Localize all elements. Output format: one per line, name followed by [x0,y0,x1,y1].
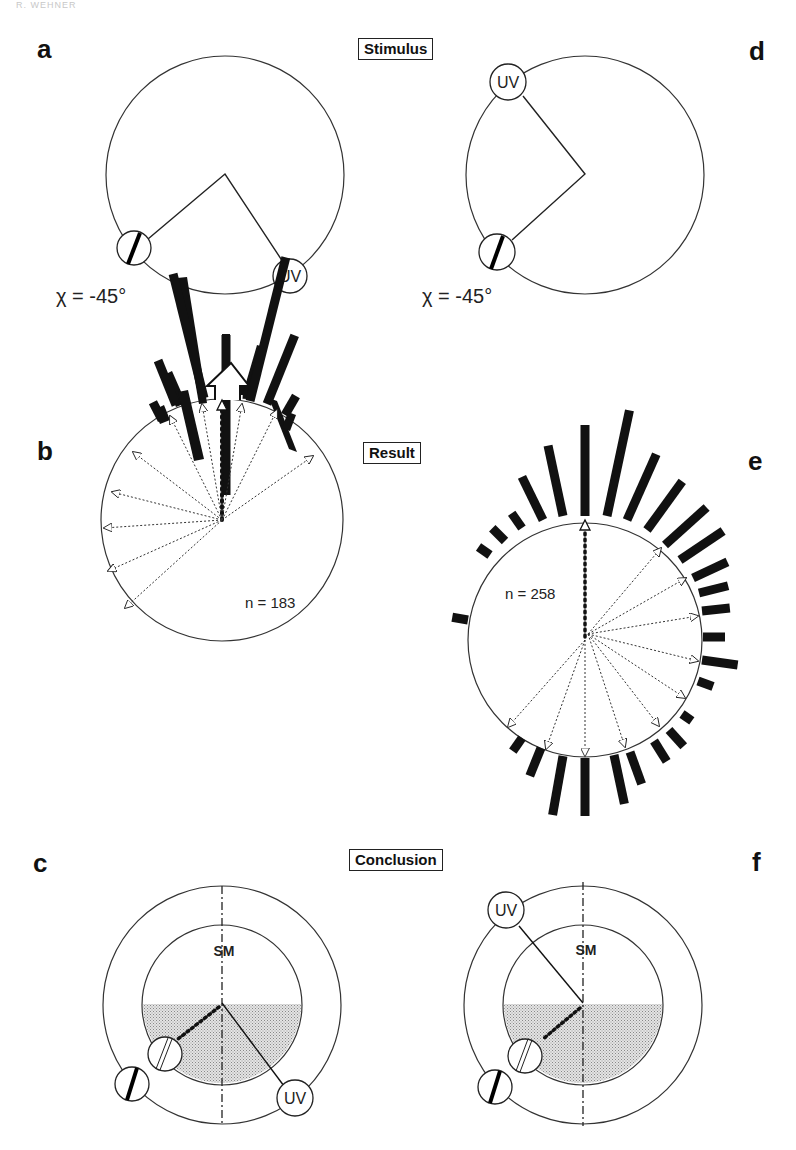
individual-vectors [508,548,698,756]
stimulus-angle-lines [512,96,585,240]
stimulus-angle-lines [148,174,283,262]
panel-b-result: n = 183 [101,256,343,641]
sample-size-label: n = 258 [505,585,555,602]
panel-c-conclusion: UV SM [103,886,341,1125]
panel-d-stimulus: UV χ = -45° [422,56,704,307]
e-vector-angle-label: χ = -45° [422,285,492,307]
uv-label: UV [495,902,518,919]
uv-label: UV [284,1090,307,1107]
mean-direction-arrowhead-icon [580,520,590,530]
sample-size-label: n = 183 [245,594,295,611]
uv-label: UV [497,74,520,91]
inferred-polarizer-icon [148,1037,182,1071]
solar-meridian-label: SM [576,942,597,958]
polarizer-icon [478,1070,512,1104]
polarizer-icon [117,231,151,265]
inferred-polarizer-icon [508,1039,542,1073]
uv-light-icon: UV [277,1080,313,1116]
panel-e-result: n = 258 [451,409,738,816]
polarizer-icon [479,234,515,270]
panel-a-stimulus: UV χ = -45° [56,56,344,307]
uv-light-icon: UV [490,64,526,100]
uv-light-icon: UV [488,892,524,928]
e-vector-angle-label: χ = -45° [56,285,126,307]
figure-canvas: UV χ = -45° UV χ = -45° [0,0,796,1150]
individual-vectors [104,404,313,608]
histogram-bars [451,409,738,816]
uv-direction-line [519,926,583,1003]
polarizer-icon [115,1067,149,1101]
solar-meridian-label: SM [214,943,235,959]
panel-f-conclusion: UV SM [464,882,702,1126]
